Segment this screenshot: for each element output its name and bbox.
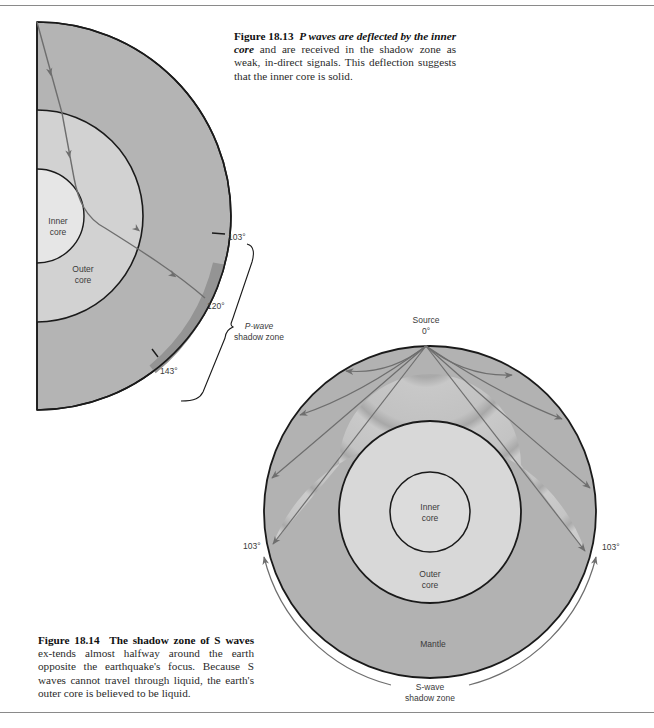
caption-number: Figure 18.14 (38, 634, 100, 646)
label-angle-left-103: 103° (243, 541, 261, 551)
label-p-wave: P-wave (245, 321, 274, 331)
label-source-angle: 0° (422, 326, 430, 336)
label-inner-core-line1: Inner (420, 502, 440, 512)
caption-title: The shadow zone of S waves (109, 634, 254, 646)
caption-body: ex-tends almost halfway around the earth… (38, 647, 254, 699)
label-inner-core-line2: core (422, 513, 439, 523)
label-s-shadow-zone: shadow zone (405, 693, 455, 703)
label-p-shadow-zone: shadow zone (234, 332, 284, 342)
figure-18-14-caption: Figure 18.14 The shadow zone of S waves … (38, 634, 254, 700)
label-inner-core-line2: core (50, 227, 67, 237)
label-outer-core-line1: Outer (419, 569, 440, 579)
caption-body: and are received in the shadow zone as w… (234, 43, 456, 81)
label-outer-core-line1: Outer (72, 264, 93, 274)
label-angle-right-103: 103° (602, 542, 620, 552)
figure-18-13-caption: Figure 18.13 P waves are deflected by th… (234, 30, 456, 83)
inner-core-layer (390, 472, 470, 552)
label-outer-core-line2: core (75, 275, 92, 285)
label-mantle: Mantle (420, 639, 446, 649)
label-angle-143: 143° (160, 366, 178, 376)
label-angle-120: 120° (207, 301, 225, 311)
label-angle-103: 103° (228, 232, 246, 242)
caption-number: Figure 18.13 (234, 30, 294, 42)
tick-103 (212, 233, 225, 234)
bottom-rule (0, 712, 654, 713)
label-inner-core-line1: Inner (48, 216, 68, 226)
label-outer-core-line2: core (422, 580, 439, 590)
label-source: Source (413, 315, 440, 325)
figure-18-14-diagram: Source 0° Inner core Outer core Mantle 1… (243, 315, 620, 703)
figures-canvas: Inner core Outer core 103° 120° 143° P-w… (0, 0, 654, 728)
label-s-wave: S-wave (416, 682, 445, 692)
